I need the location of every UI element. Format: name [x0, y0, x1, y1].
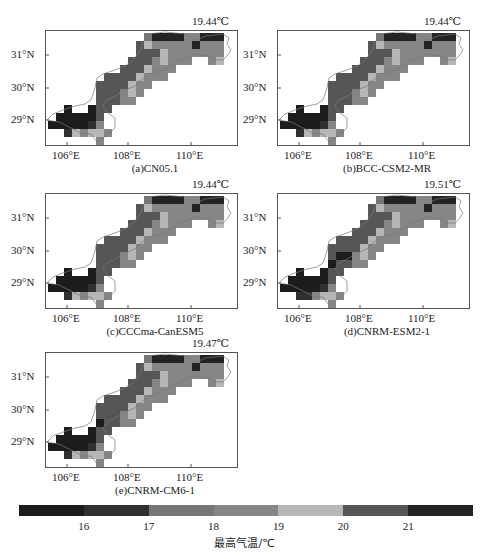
map-panel-d [277, 193, 470, 309]
colorbar-tick-label: 17 [143, 520, 154, 532]
map-grid [45, 30, 238, 152]
lat-tick-label: 31°N [243, 48, 266, 60]
colorbar-tick-label: 19 [273, 520, 284, 532]
panel-title: (d)CNRM-ESM2-1 [327, 325, 447, 337]
panel-mean-value: 19.44℃ [192, 178, 229, 191]
panel-mean-value: 19.51℃ [424, 178, 461, 191]
lat-tick-label: 29°N [11, 113, 34, 125]
lat-tick-label: 29°N [243, 276, 266, 288]
lat-tick-label: 29°N [11, 276, 34, 288]
panel-title: (a)CN05.1 [95, 162, 215, 174]
map-grid [277, 30, 470, 152]
lon-tick-label: 110°E [176, 312, 203, 324]
lon-tick-label: 108°E [345, 312, 373, 324]
lat-tick-label: 30°N [11, 244, 34, 256]
lon-tick-label: 108°E [345, 149, 373, 161]
lat-tick-label: 31°N [11, 48, 34, 60]
panel-title: (b)BCC-CSM2-MR [327, 162, 447, 174]
lat-tick-label: 30°N [11, 81, 34, 93]
lon-tick-label: 106°E [52, 312, 80, 324]
colorbar-segment [343, 505, 408, 516]
panel-mean-value: 19.47℃ [192, 337, 229, 350]
lat-tick-label: 29°N [243, 113, 266, 125]
lon-tick-label: 106°E [284, 312, 312, 324]
colorbar-segment [149, 505, 214, 516]
map-grid [277, 193, 470, 315]
lon-tick-label: 108°E [113, 471, 141, 483]
lon-tick-label: 106°E [52, 149, 80, 161]
map-panel-c [45, 193, 238, 309]
map-grid [45, 352, 238, 474]
panel-mean-value: 19.44℃ [424, 15, 461, 28]
cropped-header-text [0, 0, 489, 6]
lat-tick-label: 30°N [243, 244, 266, 256]
colorbar-segment [214, 505, 279, 516]
lon-tick-label: 108°E [113, 149, 141, 161]
map-grid [45, 193, 238, 315]
colorbar-tick-label: 21 [403, 520, 414, 532]
colorbar-tick-label: 20 [338, 520, 349, 532]
lon-tick-label: 110°E [408, 312, 435, 324]
lat-tick-label: 31°N [243, 211, 266, 223]
lon-tick-label: 106°E [284, 149, 312, 161]
map-panel-e [45, 352, 238, 468]
colorbar-segment [84, 505, 149, 516]
colorbar-segment [19, 505, 84, 516]
colorbar-tick-label: 16 [78, 520, 89, 532]
lon-tick-label: 110°E [176, 471, 203, 483]
lon-tick-label: 108°E [113, 312, 141, 324]
colorbar [19, 505, 473, 516]
lon-tick-label: 110°E [408, 149, 435, 161]
colorbar-tick-label: 18 [208, 520, 219, 532]
lat-tick-label: 31°N [11, 211, 34, 223]
lat-tick-label: 29°N [11, 435, 34, 447]
panel-mean-value: 19.44℃ [192, 15, 229, 28]
lat-tick-label: 30°N [243, 81, 266, 93]
map-panel-b [277, 30, 470, 146]
colorbar-segment [408, 505, 473, 516]
colorbar-segment [278, 505, 343, 516]
map-panel-a [45, 30, 238, 146]
panel-title: (c)CCCma-CanESM5 [95, 325, 215, 337]
lon-tick-label: 110°E [176, 149, 203, 161]
colorbar-label: 最高气温/℃ [0, 534, 489, 550]
lat-tick-label: 30°N [11, 403, 34, 415]
lon-tick-label: 106°E [52, 471, 80, 483]
panel-title: (e)CNRM-CM6-1 [95, 484, 215, 496]
lat-tick-label: 31°N [11, 370, 34, 382]
